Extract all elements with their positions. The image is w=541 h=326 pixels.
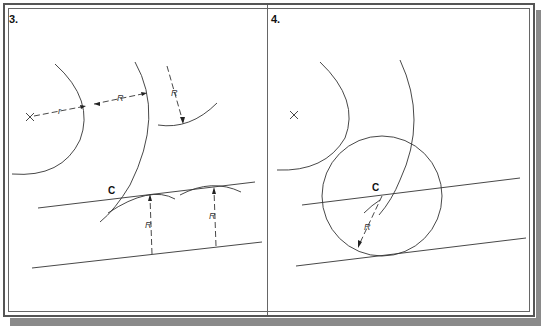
tangent-arc-1 <box>108 194 175 213</box>
center-x-icon <box>290 111 298 119</box>
label-R: R <box>364 222 371 232</box>
arc-fragment <box>364 200 380 213</box>
panel-3-drawing <box>12 62 262 268</box>
label-point-C: C <box>108 185 115 196</box>
arc-R-given <box>158 103 217 126</box>
panel-4-drawing <box>277 60 526 266</box>
line-upper <box>302 178 520 205</box>
line-lower <box>32 242 262 268</box>
arc-r <box>277 62 349 170</box>
construction-drawing: r R R R R R C C <box>0 0 541 326</box>
label-R: R <box>209 211 216 221</box>
arc-r <box>12 64 84 174</box>
label-R: R <box>117 93 124 103</box>
center-x-icon <box>26 113 34 121</box>
label-R: R <box>145 220 152 230</box>
label-R: R <box>171 88 178 98</box>
label-point-C: C <box>372 182 379 193</box>
line-lower <box>296 238 526 266</box>
dim-line-R <box>359 196 382 245</box>
